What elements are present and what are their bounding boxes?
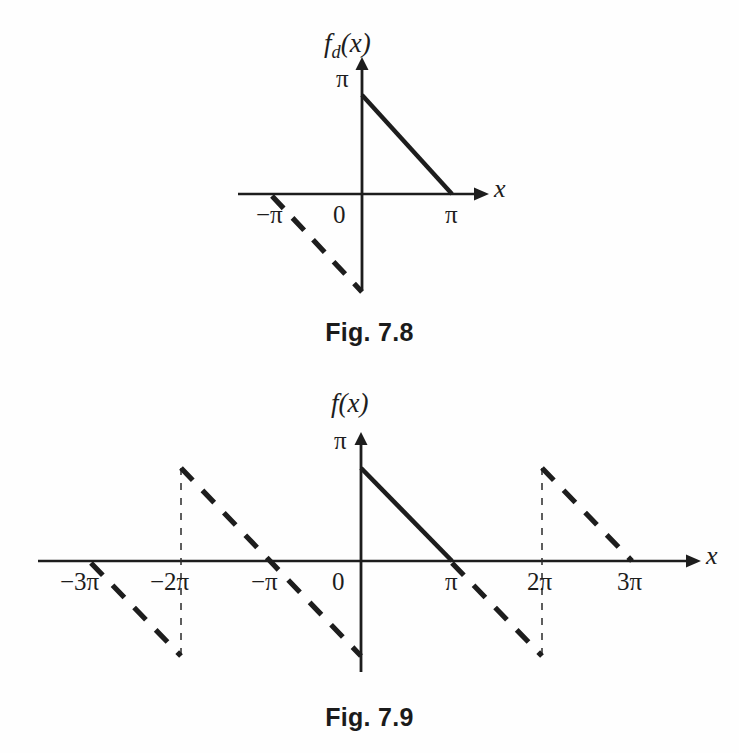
figure-caption-7-8: Fig. 7.8: [0, 318, 739, 347]
x-tick-label-pi-78: π: [445, 202, 458, 227]
x-tick-label-minus-3pi: −3π: [60, 569, 99, 594]
solid-branch-0-to-pi: [362, 95, 452, 194]
figure-7-8: fd(x) π x −π 0 π Fig. 7.8: [0, 0, 739, 380]
x-axis-label-79: x: [706, 543, 718, 569]
x-axis-label-78: x: [494, 176, 506, 202]
x-tick-label-zero-79: 0: [332, 569, 345, 594]
x-tick-label-minus-2pi: −2π: [150, 569, 189, 594]
x-tick-label-zero-78: 0: [333, 202, 346, 227]
x-axis-group-79: [38, 555, 701, 568]
x-tick-label-pi-79: π: [445, 569, 458, 594]
figure-7-9-plot: [0, 380, 739, 753]
x-axis-arrowhead-icon: [686, 555, 701, 568]
figure-caption-7-9: Fig. 7.9: [0, 703, 739, 732]
x-tick-label-minus-pi-78: −π: [256, 202, 283, 227]
function-label-suffix-78: (x): [341, 28, 371, 58]
function-subscript-d: d: [332, 42, 341, 62]
function-label-f-glyph-79: f: [331, 388, 339, 418]
x-axis-arrowhead-icon: [474, 188, 489, 201]
function-label-f-78: f: [324, 28, 332, 58]
function-label-suffix-79: (x): [339, 388, 369, 418]
solid-branch-0-pi-79: [361, 468, 452, 561]
y-tick-label-pi-78: π: [336, 66, 349, 91]
dashed-branch-minus-pi-to-0: [272, 196, 362, 292]
y-axis-group-78: [356, 57, 369, 290]
dashed-branch-2pi-3pi: [542, 468, 632, 561]
figure-7-9: f(x) π x −3π −2π −π 0 π 2π 3π Fig. 7.9: [0, 380, 739, 753]
function-label-fd: fd(x): [324, 30, 371, 61]
y-tick-label-pi-79: π: [334, 428, 347, 453]
function-label-f-79: f(x): [331, 390, 368, 417]
x-tick-label-3pi: 3π: [617, 569, 642, 594]
x-tick-label-2pi: 2π: [527, 569, 552, 594]
y-axis-arrowhead-icon: [355, 432, 368, 445]
x-tick-label-minus-pi-79: −π: [251, 569, 278, 594]
